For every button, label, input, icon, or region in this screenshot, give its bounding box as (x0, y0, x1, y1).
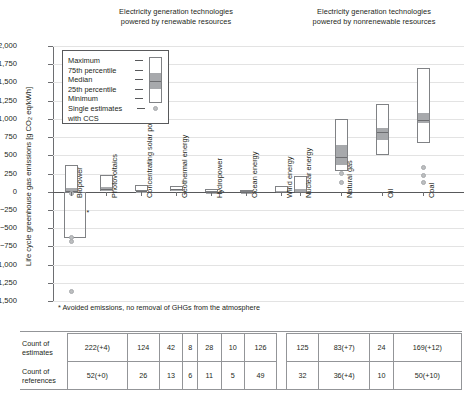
y-tick-0 (48, 192, 53, 193)
legend-label-single-estimates: Single estimates (68, 104, 122, 113)
x-label-wind-energy: Wind energy (285, 156, 294, 198)
iqr-band (377, 128, 388, 140)
y-tick-label-1250: 1,250 (0, 96, 17, 105)
ccs-estimate-dot-biopower-0 (69, 289, 74, 294)
ccs-estimate-dot-coal-2 (421, 180, 426, 185)
y-tick-label-1000: 1,000 (0, 114, 17, 123)
y-axis-title: Life cycle greenhouse gas emissions [g C… (24, 37, 33, 317)
x-tick-3 (176, 192, 177, 196)
y-tick--250 (48, 210, 53, 211)
y-tick--1000 (48, 265, 53, 266)
panel-title-renewable: Electricity generation technologies powe… (86, 7, 266, 26)
gridline--1500 (53, 301, 464, 302)
table-gap-references (277, 362, 287, 390)
y-tick-label--500: −500 (0, 223, 17, 232)
ccs-estimate-dot-coal-1 (421, 173, 426, 178)
x-tick-8 (341, 192, 342, 196)
x-label-nuclear-energy: Nuclear energy (304, 148, 313, 198)
cell-references-10: 50(+10) (393, 362, 461, 390)
y-tick-750 (48, 137, 53, 138)
legend-dash-3 (135, 89, 143, 90)
y-tick-label--750: −750 (0, 241, 17, 250)
negative-range-box-biopower (64, 192, 86, 238)
panel-title-nonrenewable: Electricity generation technologies powe… (286, 7, 462, 26)
y-tick--750 (48, 246, 53, 247)
y-axis-title-pre: Life cycle greenhouse gas emissions [g C… (24, 120, 33, 266)
counts-table: Count ofestimates 222(+4) 124 42 8 28 10… (20, 333, 462, 389)
y-tick-500 (48, 155, 53, 156)
y-tick-label-1500: 1,500 (0, 77, 17, 86)
table-row-label-estimates: Count ofestimates (20, 334, 68, 362)
median-line (418, 120, 429, 121)
x-tick-6 (281, 192, 282, 196)
x-label-photovoltaics: Photovoltaics (110, 154, 119, 198)
y-tick--500 (48, 228, 53, 229)
gridline--250 (53, 210, 464, 211)
negative-range-asterisk: * (87, 209, 90, 216)
x-tick-10 (423, 192, 424, 196)
cell-references-6: 49 (245, 362, 277, 390)
legend-label-with-ccs: with CCS (68, 114, 99, 123)
table-row-references: Count ofreferences 52(+0) 26 13 6 11 5 4… (20, 362, 462, 390)
cell-references-3: 6 (183, 362, 198, 390)
x-label-oil: Oil (386, 189, 395, 198)
legend-label-median: Median (68, 75, 92, 84)
cell-references-5: 5 (221, 362, 244, 390)
figure-root: Electricity generation technologies powe… (0, 0, 472, 402)
y-tick-label-1750: 1,750 (0, 59, 17, 68)
gridline--1250 (53, 283, 464, 284)
table-row-estimates: Count ofestimates 222(+4) 124 42 8 28 10… (20, 334, 462, 362)
cell-references-2: 13 (159, 362, 182, 390)
cell-references-0: 52(+0) (68, 362, 128, 390)
legend-dash-1 (135, 70, 143, 71)
legend: Maximum75th percentileMedian25th percent… (62, 50, 169, 124)
y-tick-1250 (48, 101, 53, 102)
gridline--750 (53, 246, 464, 247)
cell-estimates-1: 124 (127, 334, 159, 362)
panel-title-nonrenewable-line1: Electricity generation technologies (286, 7, 462, 17)
bar-oil (376, 104, 389, 154)
legend-label-minimum: Minimum (68, 94, 98, 103)
table-row-label-references: Count ofreferences (20, 362, 68, 390)
x-tick-0 (71, 192, 72, 196)
y-tick-label--1000: −1,000 (0, 260, 17, 269)
y-tick-label-0: 0 (0, 187, 17, 196)
x-tick-7 (300, 192, 301, 196)
cell-references-7: 32 (287, 362, 319, 390)
y-tick-1500 (48, 82, 53, 83)
y-axis-title-post: eq/kWh] (24, 87, 33, 117)
table-gap-estimates (277, 334, 287, 362)
cell-estimates-9: 24 (370, 334, 393, 362)
ccs-estimate-dot-coal-0 (421, 165, 426, 170)
x-label-hydropower: Hydropower (215, 158, 224, 198)
y-tick-label--1250: −1,250 (0, 278, 17, 287)
ccs-estimate-dot-natural-gas-1 (339, 180, 344, 185)
cell-estimates-2: 42 (159, 334, 182, 362)
y-tick-label-2000: 2,000 (0, 41, 17, 50)
x-label-coal: Coal (427, 183, 436, 198)
x-tick-9 (382, 192, 383, 196)
y-tick-1750 (48, 64, 53, 65)
ccs-estimate-dot-biopower-2 (69, 235, 74, 240)
median-line (336, 157, 347, 158)
legend-label-maximum: Maximum (68, 56, 100, 65)
cell-references-8: 36(+4) (319, 362, 370, 390)
y-tick--1500 (48, 301, 53, 302)
x-label-concentrating-solar-power: Concentrating solar power (145, 111, 154, 197)
cell-references-1: 26 (127, 362, 159, 390)
y-tick-label-500: 500 (0, 150, 17, 159)
legend-label-75th-percentile: 75th percentile (68, 66, 116, 75)
y-tick-label-250: 250 (0, 169, 17, 178)
bar-coal (417, 68, 430, 143)
cell-estimates-10: 169(+12) (393, 334, 461, 362)
legend-dash-0 (135, 60, 143, 61)
cell-estimates-8: 83(+7) (319, 334, 370, 362)
legend-box-swatch-icon (149, 57, 162, 103)
panel-title-renewable-line1: Electricity generation technologies (86, 7, 266, 17)
table-bottom-rule (20, 389, 462, 390)
x-tick-2 (141, 192, 142, 196)
y-tick-250 (48, 174, 53, 175)
cell-estimates-5: 10 (221, 334, 244, 362)
y-tick-label-750: 750 (0, 132, 17, 141)
x-label-natural-gas: Natural gas (345, 160, 354, 198)
